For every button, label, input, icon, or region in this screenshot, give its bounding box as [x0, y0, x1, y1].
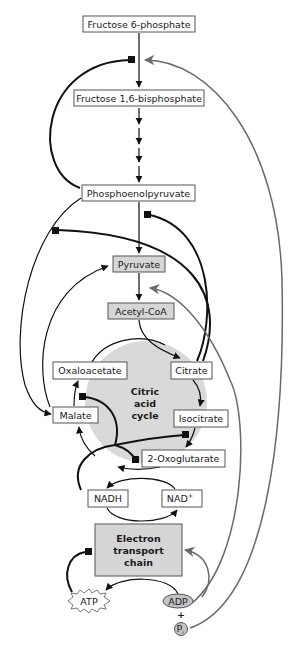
- node-nadh: NADH: [88, 490, 128, 507]
- inhibition-square-pfk-pep: [128, 56, 135, 63]
- node-oxaloacetate: Oxaloacetate: [53, 362, 127, 379]
- node-nad-plus: NAD+: [162, 490, 202, 507]
- cycle-label-line3: cycle: [131, 410, 158, 421]
- node-fructose-6-phosphate: Fructose 6-phosphate: [83, 16, 195, 32]
- plus-sign: +: [177, 609, 185, 620]
- inhibition-square-citrate-1: [144, 211, 151, 218]
- etc-label-line2: transport: [113, 545, 164, 556]
- label-adp: ADP: [168, 596, 188, 607]
- label-oxoglutarate: 2-Oxoglutarate: [148, 453, 220, 464]
- node-2-oxoglutarate: 2-Oxoglutarate: [142, 450, 225, 467]
- cycle-label-line1: Citric: [131, 386, 159, 397]
- etc-label-line1: Electron: [116, 533, 161, 544]
- label-atp: ATP: [80, 596, 98, 607]
- node-acetyl-coa: Acetyl-CoA: [108, 303, 174, 319]
- inhibition-square-atp-etc: [85, 548, 92, 555]
- cycle-label-line2: acid: [134, 398, 156, 409]
- node-isocitrate: Isocitrate: [174, 410, 228, 427]
- arrow-adp-to-atp: [106, 579, 178, 594]
- citric-acid-cycle-label: Citric acid cycle: [131, 386, 159, 421]
- inhibition-pep-to-pfk: [50, 60, 130, 188]
- label-f6p: Fructose 6-phosphate: [87, 19, 190, 30]
- node-fructose-1-6-bisphosphate: Fructose 1,6-bisphosphate: [74, 90, 204, 106]
- label-acetyl-coa: Acetyl-CoA: [115, 306, 167, 317]
- label-f16bp: Fructose 1,6-bisphosphate: [76, 93, 202, 104]
- label-oxaloacetate: Oxaloacetate: [58, 365, 122, 376]
- label-isocitrate: Isocitrate: [179, 413, 224, 424]
- node-phosphoenolpyruvate: Phosphoenolpyruvate: [82, 185, 195, 201]
- node-atp: ATP: [68, 589, 110, 613]
- glycolysis-tca-regulation-diagram: Fructose 6-phosphate Fructose 1,6-bispho…: [0, 0, 296, 652]
- etc-label-line3: chain: [124, 557, 153, 568]
- node-adp: ADP: [163, 594, 193, 608]
- label-malate: Malate: [59, 410, 91, 421]
- inhibition-square-citrate-2: [52, 227, 59, 234]
- node-malate: Malate: [53, 407, 98, 423]
- inhibition-citrate-to-malate-step: [58, 230, 210, 361]
- node-pyruvate: Pyruvate: [113, 256, 165, 272]
- inhibition-square-nadh-oxoglutarate: [132, 456, 139, 463]
- node-electron-transport-chain: Electron transport chain: [95, 524, 182, 576]
- inhibition-square-nadh-isocitrate: [182, 431, 189, 438]
- inhibition-square-nadh-malate: [79, 393, 86, 400]
- inhibition-atp-to-etc: [67, 552, 85, 592]
- inhibition-citrate-to-pep-step: [150, 215, 207, 361]
- arrow-nadplus-to-nadh: [107, 478, 175, 489]
- arrow-nadh-to-nadplus: [107, 508, 177, 521]
- label-pyruvate: Pyruvate: [118, 259, 160, 270]
- node-inorganic-phosphate: Pi: [175, 623, 188, 636]
- label-pep: Phosphoenolpyruvate: [87, 188, 190, 199]
- arrow-malate-to-oxaloacetate: [74, 381, 78, 406]
- node-citrate: Citrate: [171, 362, 212, 379]
- label-nadh: NADH: [94, 493, 122, 504]
- label-citrate: Citrate: [175, 365, 207, 376]
